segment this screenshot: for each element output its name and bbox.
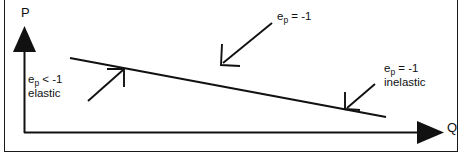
elasticity-subscript: p <box>34 78 39 88</box>
elasticity-relation: = -1 <box>288 10 311 22</box>
annotation-elastic: ep < -1 elastic <box>28 73 62 100</box>
elasticity-subscript: p <box>283 15 288 25</box>
annotation-unit-elastic-line1: ep = -1 <box>277 10 311 24</box>
elasticity-relation: = -1 <box>395 62 418 74</box>
demand-curve-line <box>70 58 386 117</box>
figure-root: P Q ep = -1 ep < -1 elastic ep = -1 inel… <box>0 0 470 162</box>
annotation-elastic-line2: elastic <box>28 87 62 101</box>
price-axis-label: P <box>21 6 30 19</box>
arrow-inelastic <box>345 84 375 110</box>
arrow-unit-elastic <box>221 23 272 66</box>
annotation-elastic-line1: ep < -1 <box>28 73 62 87</box>
price-axis-arrowhead <box>13 26 36 52</box>
elasticity-subscript: p <box>390 67 395 77</box>
annotation-inelastic: ep = -1 inelastic <box>384 62 426 89</box>
elasticity-relation: < -1 <box>39 73 62 85</box>
annotation-unit-elastic: ep = -1 <box>277 10 311 24</box>
annotation-inelastic-line1: ep = -1 <box>384 62 426 76</box>
quantity-axis-label: Q <box>447 121 457 134</box>
annotation-inelastic-line2: inelastic <box>384 76 426 90</box>
arrow-elastic <box>88 69 124 101</box>
quantity-axis-arrowhead <box>417 121 444 144</box>
